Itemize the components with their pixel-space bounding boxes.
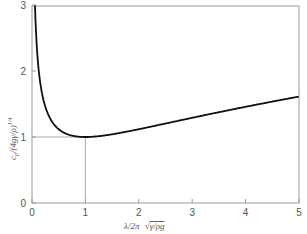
- y-tick-label: 0: [20, 198, 26, 209]
- x-tick-label: 3: [189, 207, 195, 218]
- chart: 0123450123 λ/2π √γ/ρg cp/(4gγ/ρ)1/4: [0, 0, 307, 234]
- x-tick-label: 1: [83, 207, 89, 218]
- x-tick-label: 4: [243, 207, 249, 218]
- axis-ticks: 0123450123: [20, 0, 302, 218]
- reference-lines: [32, 137, 85, 203]
- x-tick-label: 5: [296, 207, 302, 218]
- y-tick-label: 3: [20, 0, 26, 11]
- x-axis-label: λ/2π √γ/ρg: [123, 221, 165, 231]
- x-tick-label: 0: [29, 207, 35, 218]
- x-tick-label: 2: [136, 207, 142, 218]
- y-axis-label: cp/(4gγ/ρ)1/4: [7, 117, 19, 160]
- y-tick-label: 1: [20, 132, 26, 143]
- y-tick-label: 2: [20, 66, 26, 77]
- phase-speed-curve: [35, 6, 299, 138]
